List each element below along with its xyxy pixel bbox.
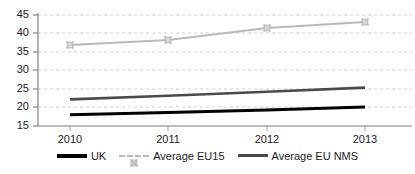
legend-swatch-average-eu-nms-icon xyxy=(238,150,268,162)
x-tick-label-2011: 2011 xyxy=(145,134,191,145)
series-average-eu-nms xyxy=(70,88,365,100)
y-tick-label-20: 20 xyxy=(3,101,29,112)
y-tick-label-25: 25 xyxy=(3,83,29,94)
legend-label-uk: UK xyxy=(91,150,106,162)
y-tick-label-45: 45 xyxy=(3,9,29,20)
x-tick-label-2012: 2012 xyxy=(244,134,290,145)
y-tick-label-15: 15 xyxy=(3,120,29,131)
legend-label-average-eu15: Average EU15 xyxy=(153,150,224,162)
legend-item-average-eu-nms[interactable]: Average EU NMS xyxy=(238,150,359,162)
x-tick-label-2010: 2010 xyxy=(47,134,93,145)
y-tick-marks xyxy=(33,15,38,126)
line-chart: 45 40 35 30 25 20 15 2010 2011 2012 2013… xyxy=(0,0,415,174)
chart-legend: UK Average EU15 Average EU NMS xyxy=(0,150,415,162)
x-tick-marks xyxy=(70,126,365,131)
legend-swatch-average-eu15-icon xyxy=(119,150,149,162)
y-tick-label-30: 30 xyxy=(3,64,29,75)
legend-item-uk[interactable]: UK xyxy=(57,150,106,162)
legend-item-average-eu15[interactable]: Average EU15 xyxy=(119,150,224,162)
y-tick-label-35: 35 xyxy=(3,46,29,57)
legend-swatch-uk-icon xyxy=(57,150,87,162)
x-tick-label-2013: 2013 xyxy=(342,134,388,145)
legend-label-average-eu-nms: Average EU NMS xyxy=(272,150,359,162)
chart-plot-area xyxy=(0,0,415,174)
series-uk xyxy=(70,107,365,115)
y-tick-label-40: 40 xyxy=(3,27,29,38)
legend-marker-x-icon xyxy=(130,153,138,161)
